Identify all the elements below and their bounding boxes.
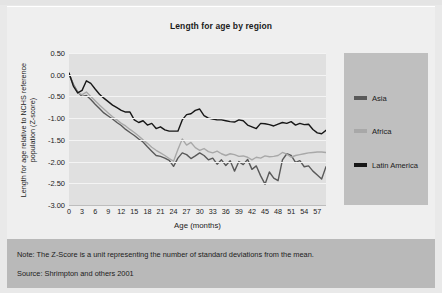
- gridline: [69, 118, 326, 119]
- gridline: [69, 96, 326, 97]
- gridline: [69, 162, 326, 163]
- x-axis-tick-label: 51: [284, 207, 298, 216]
- y-axis-tick-label: -0.50: [9, 92, 65, 101]
- x-axis-title: Age (months): [69, 221, 326, 230]
- x-axis-tick-label: 6: [88, 207, 102, 216]
- y-axis-tick-label: -3.00: [9, 201, 65, 210]
- gridline: [69, 75, 326, 76]
- chart-legend: AsiaAfricaLatin America: [344, 53, 428, 205]
- legend-swatch-icon: [354, 163, 367, 167]
- legend-item-africa[interactable]: Africa: [354, 126, 391, 136]
- legend-item-latin-america[interactable]: Latin America: [354, 160, 418, 170]
- x-axis-tick-label: 9: [101, 207, 115, 216]
- x-axis-tick-label: 24: [167, 207, 181, 216]
- legend-item-asia[interactable]: Asia: [354, 93, 387, 103]
- x-axis-tick-label: 15: [127, 207, 141, 216]
- legend-label: Asia: [372, 94, 387, 103]
- x-axis-tick-label: 21: [153, 207, 167, 216]
- series-line-latin-america: [69, 73, 326, 134]
- y-axis-tick-label: -1.50: [9, 135, 65, 144]
- x-axis-tick-label: 39: [232, 207, 246, 216]
- y-axis-tick-labels: 0.500.00-0.50-1.00-1.50-2.00-2.50-3.00: [7, 53, 65, 205]
- gridline: [69, 140, 326, 141]
- x-axis-tick-label: 54: [297, 207, 311, 216]
- y-axis-tick-label: -2.50: [9, 179, 65, 188]
- page-top-edge: [0, 0, 442, 5]
- legend-label: Africa: [372, 127, 391, 136]
- y-axis-tick-label: 0.00: [9, 70, 65, 79]
- legend-swatch-icon: [354, 96, 367, 100]
- x-axis-tick-label: 42: [245, 207, 259, 216]
- x-axis-tick-label: 12: [114, 207, 128, 216]
- x-axis-tick-label: 27: [180, 207, 194, 216]
- gridline: [69, 183, 326, 184]
- x-axis-tick-label: 45: [258, 207, 272, 216]
- x-axis-tick-label: 18: [140, 207, 154, 216]
- y-axis-tick-label: 0.50: [9, 49, 65, 58]
- gridline: [69, 53, 326, 54]
- plot-area: [69, 53, 326, 205]
- figure-container: Length for age by region Length for age …: [7, 6, 435, 287]
- x-axis-tick-label: 3: [75, 207, 89, 216]
- x-axis-tick-label: 36: [219, 207, 233, 216]
- x-axis-tick-label: 33: [206, 207, 220, 216]
- x-axis-tick-label: 30: [193, 207, 207, 216]
- figure-footer: Note: The Z-Score is a unit representing…: [7, 239, 435, 288]
- series-line-asia: [69, 74, 326, 184]
- chart-title: Length for age by region: [7, 21, 435, 31]
- y-axis-tick-label: -1.00: [9, 114, 65, 123]
- footer-source: Source: Shrimpton and others 2001: [17, 269, 134, 278]
- x-axis-tick-labels: 036912151821242730333639424548515457: [69, 207, 326, 219]
- x-axis-line: [69, 205, 326, 206]
- x-axis-tick-label: 48: [271, 207, 285, 216]
- legend-swatch-icon: [354, 129, 367, 133]
- chart-panel: Length for age by region Length for age …: [7, 7, 435, 235]
- footer-note: Note: The Z-Score is a unit representing…: [17, 250, 314, 259]
- y-axis-tick-label: -2.00: [9, 157, 65, 166]
- x-axis-tick-label: 0: [62, 207, 76, 216]
- x-axis-tick-label: 57: [310, 207, 324, 216]
- series-lines: [69, 53, 326, 205]
- legend-label: Latin America: [372, 161, 418, 170]
